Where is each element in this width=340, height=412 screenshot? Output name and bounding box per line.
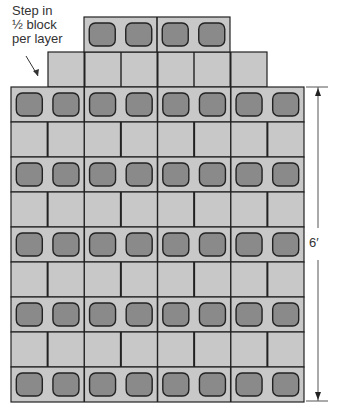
block-core-cell [53, 163, 79, 186]
block-core-cell [236, 373, 262, 396]
block-core-cell [16, 373, 42, 396]
block-core-cell [126, 93, 152, 116]
block-core-cell [126, 233, 152, 256]
block-core-cell [199, 303, 225, 326]
block-core-cell [90, 93, 116, 116]
block-core-cell [90, 303, 116, 326]
block-core-cell [273, 303, 299, 326]
arrowhead-up-icon [315, 88, 321, 96]
block-core-cell [199, 23, 225, 46]
block-core-cell [199, 163, 225, 186]
block-core-cell [16, 303, 42, 326]
step-annotation: Step in ½ block per layer [12, 4, 92, 46]
height-dimension-label: 6′ [309, 236, 319, 250]
cmu-wall-diagram [0, 0, 340, 412]
block-core-cell [163, 93, 189, 116]
block-core-cell [199, 93, 225, 116]
block-core-cell [89, 23, 115, 46]
block-core-cell [53, 233, 79, 256]
block-core-cell [16, 163, 42, 186]
block-core-cell [16, 93, 42, 116]
block-core-cell [126, 303, 152, 326]
block-core-cell [90, 373, 116, 396]
block-core-cell [163, 163, 189, 186]
block-core-cell [236, 163, 262, 186]
block-core-cell [16, 233, 42, 256]
annotation-line-1: Step in [12, 4, 92, 18]
block-core-cell [236, 93, 262, 116]
block-core-cell [273, 373, 299, 396]
block-core-cell [162, 23, 188, 46]
block-core-cell [53, 303, 79, 326]
block-core-cell [273, 93, 299, 116]
block-core-cell [90, 233, 116, 256]
block-core-cell [199, 373, 225, 396]
block-core-cell [163, 233, 189, 256]
block-core-cell [126, 163, 152, 186]
annotation-line-3: per layer [12, 32, 92, 46]
annotation-line-2: ½ block [12, 18, 92, 32]
block-core-cell [90, 163, 116, 186]
arrowhead-down-icon [315, 392, 321, 400]
block-core-cell [236, 233, 262, 256]
block-core-cell [163, 303, 189, 326]
block-core-cell [236, 303, 262, 326]
block-core-cell [126, 23, 152, 46]
block-core-cell [199, 233, 225, 256]
block-core-cell [53, 373, 79, 396]
block-core-cell [126, 373, 152, 396]
block-core-cell [53, 93, 79, 116]
block-core-cell [273, 163, 299, 186]
block-core-cell [273, 233, 299, 256]
block-core-cell [163, 373, 189, 396]
